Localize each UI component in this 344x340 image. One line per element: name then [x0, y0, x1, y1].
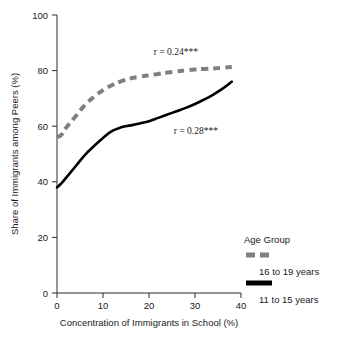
y-tick-label: 100 [32, 10, 48, 21]
legend-label-11-to-15-years: 11 to 15 years [259, 294, 319, 305]
y-axis-title: Share of Immigrants among Peers (%) [9, 73, 20, 235]
x-axis-title: Concentration of Immigrants in School (%… [60, 317, 238, 328]
y-tick-label: 60 [37, 121, 48, 132]
x-tick-label: 20 [144, 300, 155, 311]
y-tick-label: 40 [37, 176, 48, 187]
x-tick-label: 10 [98, 300, 109, 311]
x-tick-label: 0 [54, 300, 59, 311]
chart-figure: 100 80 60 40 20 0 0 10 20 30 40 Concentr… [0, 0, 344, 340]
legend-title: Age Group [244, 234, 290, 245]
legend-label-16-to-19-years: 16 to 19 years [259, 266, 319, 277]
annotation-r-value-11-to-15: r = 0.28*** [174, 126, 218, 136]
x-axis-ticks [57, 293, 241, 298]
x-tick-label: 30 [190, 300, 201, 311]
x-axis-tick-labels: 0 10 20 30 40 [54, 300, 246, 311]
x-tick-label: 40 [236, 300, 247, 311]
chart-canvas: 100 80 60 40 20 0 0 10 20 30 40 Concentr… [0, 0, 344, 340]
y-axis-tick-labels: 100 80 60 40 20 0 [32, 10, 48, 299]
legend: Age Group 16 to 19 years 11 to 15 years [244, 234, 319, 305]
y-tick-label: 0 [43, 288, 48, 299]
y-axis-ticks [52, 15, 57, 293]
y-tick-label: 80 [37, 65, 48, 76]
annotation-r-value-16-to-19: r = 0.24*** [154, 47, 198, 57]
y-tick-label: 20 [37, 232, 48, 243]
